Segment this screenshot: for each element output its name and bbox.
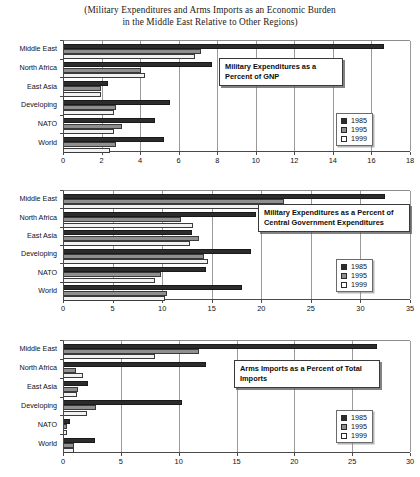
figure-page: (Military Expenditures and Arms Imports … bbox=[0, 0, 420, 477]
y-axis-label-middle-east: Middle East bbox=[0, 344, 57, 353]
bar bbox=[64, 368, 76, 373]
legend-item-1985: 1985 bbox=[341, 413, 367, 422]
bar bbox=[64, 443, 74, 448]
bar bbox=[64, 424, 67, 429]
x-axis-tick-label: 15 bbox=[232, 457, 240, 466]
x-axis-tick bbox=[179, 453, 180, 456]
bar bbox=[64, 411, 87, 416]
y-axis-label-developing: Developing bbox=[0, 401, 57, 410]
bar bbox=[64, 392, 77, 397]
legend-item-1995: 1995 bbox=[341, 422, 367, 431]
bar bbox=[64, 344, 377, 349]
x-axis-tick-label: 0 bbox=[61, 457, 65, 466]
x-axis-tick-label: 10 bbox=[175, 457, 183, 466]
bar bbox=[64, 438, 95, 443]
legend-swatch-icon bbox=[341, 433, 347, 439]
x-axis-tick bbox=[237, 453, 238, 456]
x-axis-tick bbox=[294, 453, 295, 456]
chart-callout-chart-arms: Arms Imports as a Percent of TotalImport… bbox=[234, 360, 380, 388]
x-axis-tick-label: 25 bbox=[348, 457, 356, 466]
x-axis-tick-label: 30 bbox=[406, 457, 414, 466]
x-axis-tick-label: 20 bbox=[290, 457, 298, 466]
callout-line-2: Imports bbox=[240, 374, 374, 384]
y-axis-label-world: World bbox=[0, 439, 57, 448]
legend-label: 1995 bbox=[351, 422, 367, 431]
x-axis-tick bbox=[352, 453, 353, 456]
bar bbox=[64, 354, 155, 359]
bar bbox=[64, 381, 88, 386]
x-axis-tick bbox=[121, 453, 122, 456]
legend-item-1999: 1999 bbox=[341, 431, 367, 440]
gridline-30 bbox=[410, 341, 411, 452]
x-axis-tick bbox=[63, 453, 64, 456]
bar bbox=[64, 362, 206, 367]
bar bbox=[64, 419, 70, 424]
y-axis-label-east-asia: East Asia bbox=[0, 382, 57, 391]
chart-legend: 198519951999 bbox=[336, 410, 373, 443]
bar-group bbox=[64, 341, 410, 360]
legend-label: 1999 bbox=[351, 431, 367, 440]
bar bbox=[64, 430, 67, 435]
x-axis-tick-label: 5 bbox=[119, 457, 123, 466]
chart-chart-arms: Middle EastNorth AfricaEast AsiaDevelopi… bbox=[0, 0, 420, 477]
bar bbox=[64, 373, 83, 378]
bar bbox=[64, 400, 182, 405]
bar bbox=[64, 387, 78, 392]
legend-swatch-icon bbox=[341, 415, 347, 421]
x-axis-tick bbox=[410, 453, 411, 456]
legend-swatch-icon bbox=[341, 424, 347, 430]
y-axis-label-north-africa: North Africa bbox=[0, 363, 57, 372]
callout-line-1: Arms Imports as a Percent of Total bbox=[240, 364, 374, 374]
bar bbox=[64, 405, 96, 410]
legend-label: 1985 bbox=[351, 413, 367, 422]
bar bbox=[64, 349, 199, 354]
bar bbox=[64, 448, 74, 453]
y-axis-label-nato: NATO bbox=[0, 420, 57, 429]
